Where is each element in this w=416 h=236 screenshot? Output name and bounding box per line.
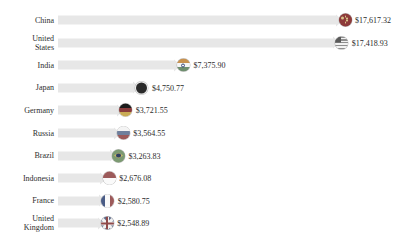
bar-zone: $2,676.08 (58, 168, 416, 188)
bar-zone: $2,548.89 (58, 213, 416, 233)
chart-row: Japan$4,750.77 (0, 78, 416, 98)
country-label: Russia (0, 129, 58, 138)
value-bar (58, 196, 99, 205)
country-label: Brazil (0, 151, 58, 160)
chart-row: Russia$3,564.55 (0, 123, 416, 143)
flag-united-states-icon (335, 36, 348, 49)
value-bar (58, 83, 133, 92)
flag-united-kingdom-icon (101, 217, 114, 230)
chart-row: Brazil$3,263.83 (0, 146, 416, 166)
country-label: Japan (0, 83, 58, 92)
value-bar (58, 38, 333, 47)
value-bar (58, 16, 336, 25)
country-label: India (0, 61, 58, 70)
value-label: $3,564.55 (133, 129, 165, 138)
chart-row: United Kingdom$2,548.89 (0, 213, 416, 233)
flag-germany-icon (119, 104, 132, 117)
value-bar (58, 219, 98, 228)
flag-india-icon (177, 59, 190, 72)
chart-row: India$7,375.90 (0, 55, 416, 75)
value-label: $3,263.83 (129, 151, 161, 160)
chart-row: United States$17,418.93 (0, 33, 416, 53)
bar-zone: $3,564.55 (58, 123, 416, 143)
value-bar (58, 151, 110, 160)
country-label: Germany (0, 106, 58, 115)
value-label: $17,418.93 (352, 38, 388, 47)
country-label: Indonesia (0, 174, 58, 183)
value-bar (58, 174, 100, 183)
flag-russia-icon (117, 127, 130, 140)
chart-row: France$2,580.75 (0, 191, 416, 211)
value-bar (58, 106, 117, 115)
value-label: $2,548.89 (117, 219, 149, 228)
bar-zone: $3,721.55 (58, 100, 416, 120)
flag-china-icon (339, 14, 352, 27)
chart-row: China$17,617.32 (0, 10, 416, 30)
bar-zone: $2,580.75 (58, 191, 416, 211)
bar-zone: $3,263.83 (58, 146, 416, 166)
country-label: United Kingdom (0, 214, 58, 232)
value-bar (58, 129, 114, 138)
bar-zone: $17,617.32 (58, 10, 416, 30)
value-label: $2,580.75 (118, 196, 150, 205)
chart-row: Germany$3,721.55 (0, 100, 416, 120)
value-label: $3,721.55 (136, 106, 168, 115)
chart-row: Indonesia$2,676.08 (0, 168, 416, 188)
horizontal-bar-chart: China$17,617.32United States$17,418.93In… (0, 0, 416, 236)
bar-zone: $7,375.90 (58, 55, 416, 75)
value-label: $4,750.77 (152, 83, 184, 92)
value-label: $7,375.90 (193, 61, 225, 70)
country-label: France (0, 196, 58, 205)
value-bar (58, 61, 174, 70)
country-label: United States (0, 34, 58, 52)
value-label: $2,676.08 (119, 174, 151, 183)
flag-brazil-icon (112, 149, 125, 162)
bar-zone: $4,750.77 (58, 78, 416, 98)
flag-france-icon (101, 194, 114, 207)
country-label: China (0, 16, 58, 25)
bar-zone: $17,418.93 (58, 33, 416, 53)
flag-indonesia-icon (103, 172, 116, 185)
flag-japan-icon (135, 81, 148, 94)
value-label: $17,617.32 (355, 16, 391, 25)
